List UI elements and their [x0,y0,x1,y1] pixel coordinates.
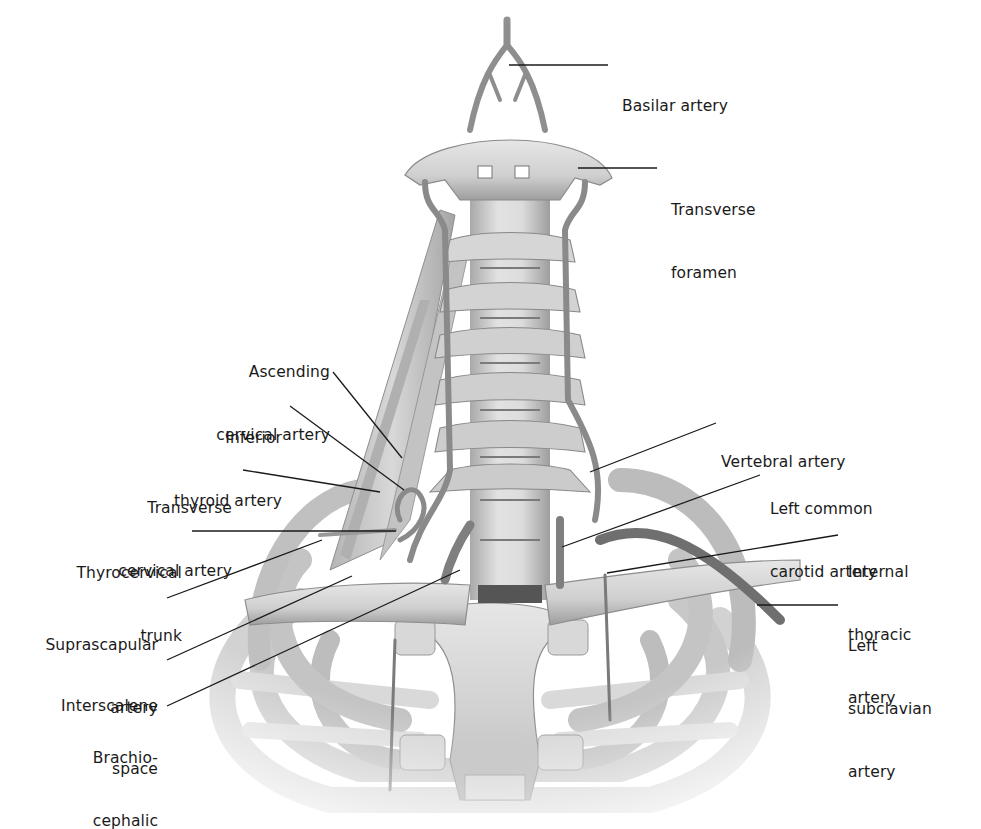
label-brachiocephalic-trunk: Brachio- cephalic trunk [93,706,158,829]
label-left-subclavian-artery: Left subclavian artery [848,594,932,804]
label-transverse-foramen: Transverse foramen [671,158,756,305]
label-basilar-artery: Basilar artery [622,54,728,138]
